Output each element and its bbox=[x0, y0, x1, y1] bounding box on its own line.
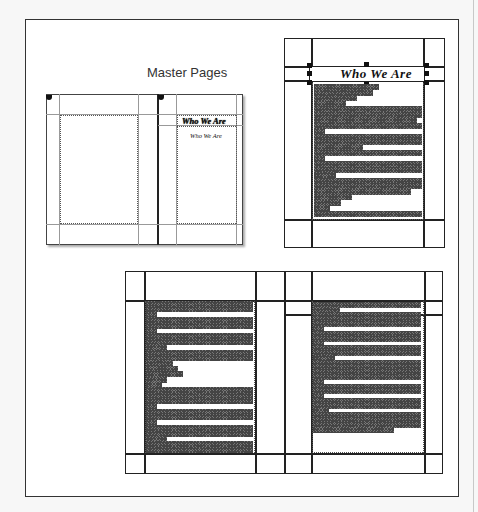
text-line bbox=[313, 388, 421, 394]
master-subheading: Who We Are bbox=[190, 132, 222, 139]
text-line bbox=[313, 403, 421, 409]
selection-handle[interactable] bbox=[424, 63, 429, 68]
page-heading: Who We Are bbox=[340, 66, 412, 82]
selection-handle[interactable] bbox=[424, 80, 429, 85]
master-heading: Who We Are bbox=[182, 116, 226, 126]
text-line bbox=[313, 427, 394, 433]
selection-handle[interactable] bbox=[307, 63, 312, 68]
bottom-margin-guide bbox=[46, 224, 243, 225]
text-line bbox=[146, 414, 253, 420]
page-edge-rule bbox=[473, 0, 474, 512]
text-line bbox=[313, 321, 421, 327]
text-line bbox=[314, 123, 422, 129]
text-line bbox=[313, 336, 421, 342]
text-line bbox=[313, 374, 421, 380]
master-spine bbox=[157, 94, 159, 245]
text-line bbox=[314, 150, 422, 156]
master-pages-label: Master Pages bbox=[147, 65, 227, 80]
selection-handle[interactable] bbox=[307, 71, 312, 76]
text-line bbox=[146, 323, 253, 329]
left-inner-guide bbox=[138, 94, 139, 245]
selection-handle[interactable] bbox=[364, 62, 369, 67]
text-line bbox=[146, 447, 253, 453]
text-line bbox=[146, 306, 253, 312]
text-line bbox=[146, 398, 253, 404]
text-line bbox=[314, 211, 422, 217]
selection-handle[interactable] bbox=[424, 71, 429, 76]
